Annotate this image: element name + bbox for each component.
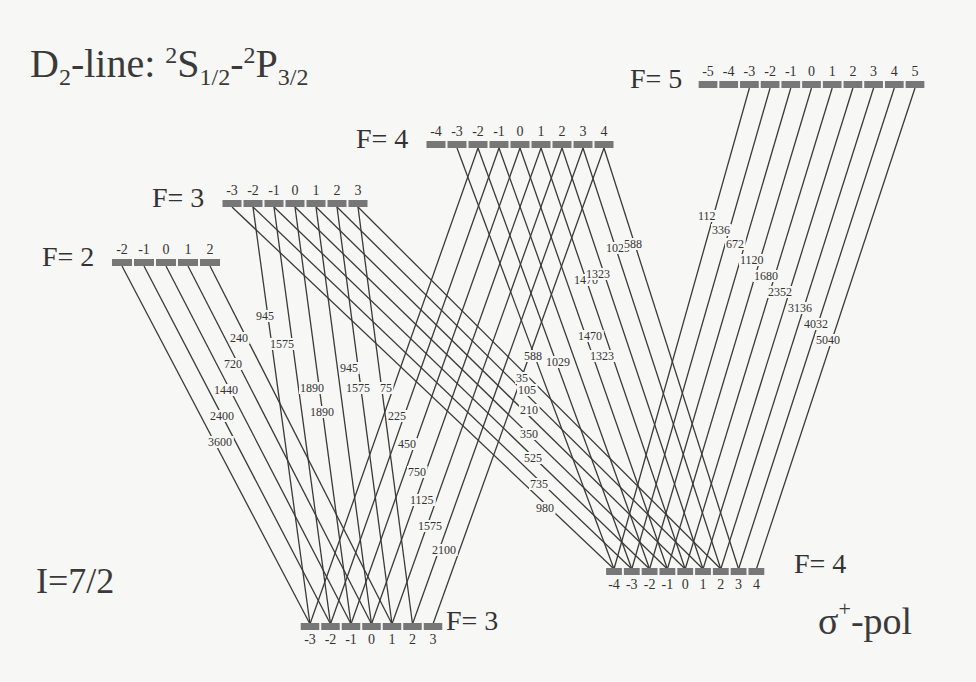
- sublevel-bar: [699, 81, 718, 88]
- sublevel-bar: [906, 81, 925, 88]
- sublevel-bar: [642, 568, 658, 575]
- sublevel-bar: [695, 568, 711, 575]
- magnetic-quantum-number: 2: [849, 64, 856, 79]
- magnetic-quantum-number: 5: [912, 64, 919, 79]
- transition-line: [499, 148, 650, 569]
- transition-line: [604, 148, 739, 569]
- sublevel-bar: [403, 623, 422, 630]
- magnetic-quantum-number: 3: [430, 632, 437, 647]
- transition-coefficient: 525: [524, 451, 542, 465]
- sublevel-bar: [342, 623, 361, 630]
- transition-line: [632, 88, 770, 569]
- magnetic-quantum-number: 3: [580, 124, 587, 139]
- transition-coefficient: 336: [712, 223, 730, 237]
- sublevel-bar: [424, 623, 443, 630]
- sublevel-bar: [448, 141, 467, 148]
- transition-coefficient: 5040: [816, 333, 840, 347]
- hyperfine-level-label: F= 4: [356, 123, 408, 154]
- magnetic-quantum-number: -3: [304, 632, 316, 647]
- sublevel-bar: [606, 568, 622, 575]
- magnetic-quantum-number: 4: [601, 124, 608, 139]
- transition-coefficient: 2352: [768, 285, 792, 299]
- transition-coefficient: 4032: [804, 317, 828, 331]
- sublevel-bar: [362, 623, 381, 630]
- transition-coefficient: 1440: [214, 383, 238, 397]
- magnetic-quantum-number: 1: [829, 64, 836, 79]
- magnetic-quantum-number: -2: [472, 124, 484, 139]
- sublevel-bar: [781, 81, 800, 88]
- transition-coefficient: 1890: [300, 381, 324, 395]
- sublevel-bar: [301, 623, 320, 630]
- transition-coefficient: 720: [224, 357, 242, 371]
- sublevel-bar: [178, 259, 198, 266]
- transition-coefficient: 35: [516, 371, 528, 385]
- transition-coefficient: 1323: [586, 267, 610, 281]
- magnetic-quantum-number: -1: [138, 242, 150, 257]
- transition-line: [756, 88, 915, 569]
- magnetic-quantum-number: 0: [517, 124, 524, 139]
- transition-coefficient: 225: [388, 409, 406, 423]
- magnetic-quantum-number: 2: [207, 242, 214, 257]
- transition-line: [253, 207, 310, 624]
- sublevel-bar: [200, 259, 220, 266]
- transition-coefficient: 1890: [310, 405, 334, 419]
- transition-coefficient: 210: [520, 403, 538, 417]
- transition-coefficient: 240: [230, 331, 248, 345]
- transition-coefficient: 672: [726, 237, 744, 251]
- hyperfine-level-label: F= 3: [152, 182, 204, 213]
- sublevel-bar: [844, 81, 863, 88]
- transition-coefficient: 2400: [210, 409, 234, 423]
- magnetic-quantum-number: 2: [717, 577, 724, 592]
- transition-coefficient: 980: [536, 501, 554, 515]
- magnetic-quantum-number: -2: [644, 577, 656, 592]
- magnetic-quantum-number: -1: [345, 632, 357, 647]
- transition-coefficient: 75: [380, 381, 392, 395]
- sublevel-bar: [223, 200, 242, 207]
- transition-coefficient: 1029: [546, 355, 570, 369]
- hyperfine-level-label: F= 3: [446, 605, 498, 636]
- sublevel-bar: [112, 259, 132, 266]
- magnetic-quantum-number: -3: [626, 577, 638, 592]
- magnetic-quantum-number: -1: [493, 124, 505, 139]
- sublevel-bar: [383, 623, 402, 630]
- magnetic-quantum-number: -1: [268, 183, 280, 198]
- sublevel-bar: [677, 568, 693, 575]
- magnetic-quantum-number: 1: [313, 183, 320, 198]
- transition-coefficient: 588: [524, 349, 542, 363]
- transition-line: [614, 88, 749, 569]
- magnetic-quantum-number: -3: [226, 183, 238, 198]
- magnetic-quantum-number: 1: [538, 124, 545, 139]
- sublevel-bar: [511, 141, 530, 148]
- transition-coefficient: 3600: [208, 435, 232, 449]
- transition-coefficient: 3136: [788, 301, 812, 315]
- transition-line: [232, 207, 614, 569]
- magnetic-quantum-number: 1: [700, 577, 707, 592]
- sublevel-bar: [885, 81, 904, 88]
- magnetic-quantum-number: 0: [292, 183, 299, 198]
- transition-coefficient: 1575: [346, 381, 370, 395]
- magnetic-quantum-number: 0: [682, 577, 689, 592]
- magnetic-quantum-number: 4: [891, 64, 898, 79]
- sublevel-bar: [749, 568, 765, 575]
- sublevel-bar: [719, 81, 738, 88]
- magnetic-quantum-number: -5: [702, 64, 714, 79]
- sublevel-bar: [328, 200, 347, 207]
- magnetic-quantum-number: 0: [163, 242, 170, 257]
- transition-coefficient: 1575: [418, 519, 442, 533]
- transition-line: [703, 88, 853, 569]
- magnetic-quantum-number: -2: [116, 242, 128, 257]
- magnetic-quantum-number: 3: [735, 577, 742, 592]
- sublevel-bar: [864, 81, 883, 88]
- magnetic-quantum-number: -4: [723, 64, 735, 79]
- magnetic-quantum-number: 3: [355, 183, 362, 198]
- magnetic-quantum-number: 1: [185, 242, 192, 257]
- transition-coefficient: 588: [624, 237, 642, 251]
- magnetic-quantum-number: 4: [753, 577, 760, 592]
- transition-coefficient: 945: [256, 309, 274, 323]
- magnetic-quantum-number: -4: [430, 124, 442, 139]
- magnetic-quantum-number: -4: [608, 577, 620, 592]
- transition-coefficient: 2100: [432, 543, 456, 557]
- sublevel-bar: [802, 81, 821, 88]
- magnetic-quantum-number: 3: [870, 64, 877, 79]
- sublevel-bar: [595, 141, 614, 148]
